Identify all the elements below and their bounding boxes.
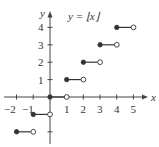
closed-dot-icon bbox=[115, 25, 119, 29]
step-segment bbox=[14, 129, 35, 134]
y-tick-label: 4 bbox=[38, 21, 44, 33]
step-segment bbox=[31, 112, 52, 117]
x-axis-label: x bbox=[150, 91, 156, 103]
step-segment bbox=[81, 60, 102, 65]
x-tick-label: 5 bbox=[131, 103, 137, 115]
y-axis-arrow-icon bbox=[48, 11, 53, 18]
open-dot-icon bbox=[98, 60, 103, 65]
x-axis bbox=[4, 95, 146, 100]
closed-dot-icon bbox=[31, 112, 35, 116]
step-segment bbox=[65, 77, 86, 82]
x-tick-label: 1 bbox=[64, 103, 70, 115]
open-dot-icon bbox=[31, 129, 36, 134]
x-tick-label: −2 bbox=[4, 103, 16, 115]
y-tick-label: 2 bbox=[38, 56, 44, 68]
y-tick-labels: 4 3 2 1 bbox=[38, 21, 44, 86]
y-tick-label: 3 bbox=[38, 39, 44, 51]
step-segment bbox=[115, 25, 136, 30]
closed-dot-icon bbox=[98, 43, 102, 47]
open-dot-icon bbox=[81, 77, 86, 82]
closed-dot-icon bbox=[48, 95, 52, 99]
step-segments bbox=[14, 25, 136, 134]
closed-dot-icon bbox=[65, 77, 69, 81]
floor-function-graph: x y y = ⌊x⌋ −2 −1 1 2 3 4 5 4 3 2 1 bbox=[0, 0, 159, 147]
chart-title: y = ⌊x⌋ bbox=[67, 10, 101, 22]
x-tick-label: 2 bbox=[81, 103, 87, 115]
closed-dot-icon bbox=[14, 130, 18, 134]
step-segment bbox=[48, 95, 69, 100]
open-dot-icon bbox=[48, 112, 53, 117]
step-segment bbox=[98, 42, 119, 47]
x-tick-labels: −2 −1 1 2 3 4 5 bbox=[4, 103, 137, 115]
x-tick-label: 4 bbox=[114, 103, 120, 115]
x-axis-arrow-icon bbox=[142, 95, 148, 100]
graph-canvas: x y y = ⌊x⌋ −2 −1 1 2 3 4 5 4 3 2 1 bbox=[0, 0, 159, 147]
x-tick-label: 3 bbox=[97, 103, 103, 115]
open-dot-icon bbox=[114, 42, 119, 47]
y-axis bbox=[48, 17, 53, 144]
open-dot-icon bbox=[131, 25, 136, 30]
open-dot-icon bbox=[64, 95, 69, 100]
closed-dot-icon bbox=[81, 60, 85, 64]
y-axis-label: y bbox=[39, 7, 45, 19]
y-tick-label: 1 bbox=[38, 74, 44, 86]
